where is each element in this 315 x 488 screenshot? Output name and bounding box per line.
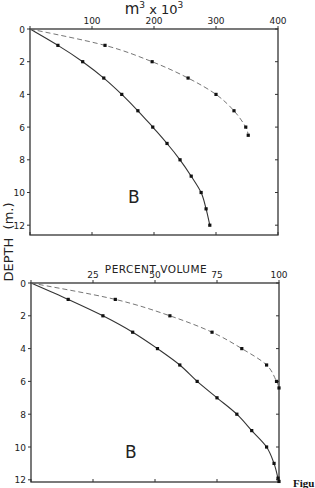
data-point-marker — [151, 60, 154, 63]
x-tick-label: 25 — [87, 270, 98, 280]
x-tick-label: 200 — [145, 16, 162, 26]
y-tick-label: 6 — [19, 123, 25, 133]
data-point-marker — [178, 363, 181, 366]
plot-frame — [30, 29, 278, 235]
data-point-marker — [208, 224, 211, 227]
y-tick-label: 2 — [20, 311, 26, 321]
data-point-marker — [214, 93, 217, 96]
data-point-marker — [101, 314, 104, 317]
y-tick-label: 4 — [20, 344, 26, 354]
data-point-marker — [120, 93, 123, 96]
panel-label: B — [125, 442, 137, 462]
data-point-marker — [165, 142, 168, 145]
data-point-marker — [275, 380, 278, 383]
y-tick-label: 12 — [15, 475, 26, 485]
data-point-marker — [102, 76, 105, 79]
data-point-marker — [250, 429, 253, 432]
y-tick-label: 2 — [19, 57, 25, 67]
x-tick-label: 100 — [270, 270, 287, 280]
y-tick-label: 6 — [20, 377, 26, 387]
data-point-marker — [277, 480, 280, 483]
data-point-marker — [277, 386, 280, 389]
data-point-marker — [215, 396, 218, 399]
x-tick-label: 50 — [149, 270, 161, 280]
data-point-marker — [240, 347, 243, 350]
chart-cumulative-volume: m3 x 103 100200300400024681012 B — [14, 0, 287, 235]
data-point-marker — [56, 44, 59, 47]
data-point-marker — [244, 126, 247, 129]
data-point-marker — [196, 380, 199, 383]
y-tick-label: 0 — [19, 25, 25, 35]
data-point-marker — [168, 314, 171, 317]
data-point-marker — [190, 175, 193, 178]
x-tick-label: 100 — [83, 16, 100, 26]
data-point-marker — [151, 126, 154, 129]
data-point-marker — [81, 60, 84, 63]
data-point-marker — [235, 413, 238, 416]
panel-label: B — [128, 187, 140, 207]
data-point-marker — [178, 158, 181, 161]
data-point-marker — [272, 462, 275, 465]
data-point-marker — [103, 44, 106, 47]
x-tick-label: 400 — [269, 16, 286, 26]
data-point-marker — [265, 445, 268, 448]
data-point-marker — [187, 76, 190, 79]
data-point-marker — [210, 331, 213, 334]
plot-area: 100200300400024681012 — [14, 16, 287, 235]
y-tick-label: 0 — [20, 279, 26, 289]
x-tick-label: 300 — [207, 16, 224, 26]
x-tick-label: 75 — [211, 270, 222, 280]
data-point-marker — [136, 109, 139, 112]
x-axis-title-sup2: 3 — [178, 0, 184, 10]
x-axis-title-mid: x 10 — [145, 2, 178, 17]
y-tick-label: 10 — [15, 443, 27, 453]
y-tick-label: 8 — [20, 410, 26, 420]
x-axis-title-base: m — [125, 0, 140, 18]
series-dashed-line — [30, 29, 248, 135]
plot-area: 255075100024681012 — [15, 270, 288, 485]
y-tick-label: 10 — [14, 188, 26, 198]
data-point-marker — [276, 477, 279, 480]
y-tick-label: 4 — [19, 90, 25, 100]
y-tick-label: 8 — [19, 155, 25, 165]
data-point-marker — [204, 207, 207, 210]
plot-frame — [31, 283, 279, 482]
data-point-marker — [200, 191, 203, 194]
data-point-marker — [247, 134, 250, 137]
figure-caption: Figu — [293, 477, 314, 488]
series-solid-line — [31, 283, 279, 481]
data-point-marker — [67, 298, 70, 301]
chart-percent-volume: PERCENT VOLUME 255075100024681012 B — [15, 263, 288, 485]
data-point-marker — [232, 109, 235, 112]
data-point-marker — [114, 298, 117, 301]
figure: m3 x 103 100200300400024681012 B PERCENT… — [0, 0, 315, 488]
data-point-marker — [156, 347, 159, 350]
data-point-marker — [265, 363, 268, 366]
data-point-marker — [131, 331, 134, 334]
y-axis-title: DEPTH (m.) — [1, 203, 16, 282]
series-solid-line — [30, 29, 210, 225]
